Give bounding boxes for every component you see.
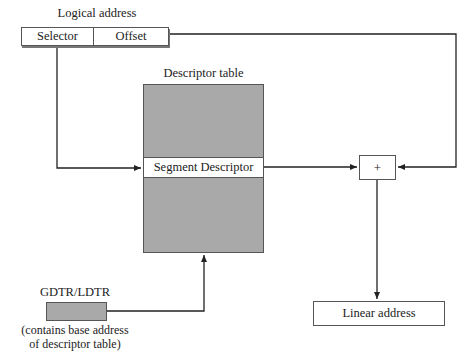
offset-field: Offset [93, 27, 169, 46]
register-caption-line1: (contains base address [0, 323, 150, 337]
register-caption: (contains base address of descriptor tab… [0, 323, 150, 351]
plus-icon: + [374, 160, 381, 176]
adder-box: + [359, 155, 396, 180]
offset-label: Offset [115, 29, 146, 44]
linear-address-label: Linear address [342, 306, 415, 321]
selector-label: Selector [37, 29, 78, 44]
register-caption-line2: of descriptor table) [0, 337, 150, 351]
descriptor-table-title: Descriptor table [143, 66, 264, 81]
logical-address-title: Logical address [22, 6, 172, 21]
gdtr-ldtr-register [46, 302, 107, 321]
segment-descriptor-label: Segment Descriptor [154, 160, 254, 175]
register-title: GDTR/LDTR [30, 285, 120, 300]
segment-descriptor-entry: Segment Descriptor [143, 157, 264, 178]
linear-address-box: Linear address [313, 301, 445, 326]
selector-field: Selector [21, 27, 94, 46]
